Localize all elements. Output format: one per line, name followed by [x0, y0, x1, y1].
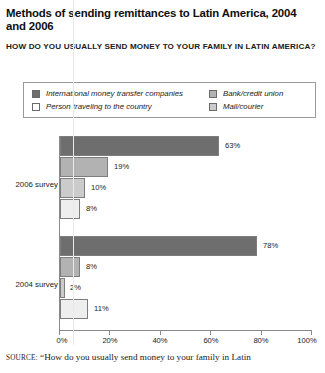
legend-swatch-icon	[32, 90, 40, 98]
bar-value-label: 63%	[225, 141, 240, 150]
page-title: Methods of sending remittances to Latin …	[6, 7, 313, 34]
x-axis-tick-label: 60%	[203, 336, 218, 345]
bar-2006-international-money-transfer-companies	[60, 136, 219, 156]
bar-value-label: 2%	[70, 283, 81, 292]
x-axis-tick	[311, 331, 312, 335]
group-label-2004: 2004 survey	[2, 280, 58, 289]
bar-2006-person-traveling-to-the-country	[60, 178, 85, 198]
bar-2004-person-traveling-to-the-country	[60, 278, 65, 298]
x-axis-line	[59, 330, 312, 331]
chart-header: Methods of sending remittances to Latin …	[0, 0, 325, 51]
x-axis-tick-label: 40%	[152, 336, 167, 345]
bar-value-label: 19%	[114, 162, 129, 171]
chart-page: Methods of sending remittances to Latin …	[0, 0, 325, 373]
x-axis-tick-label: 100%	[297, 336, 316, 345]
x-axis-tick	[261, 331, 262, 335]
bar-2004-international-money-transfer-companies	[60, 236, 257, 256]
bar-2006-mail-courier	[60, 199, 80, 219]
bar-2004-mail-courier	[60, 299, 88, 319]
legend-item-label: Person traveling to the country	[46, 102, 152, 111]
x-axis-tick-label: 0%	[57, 336, 68, 345]
bar-2004-bank-credit-union	[60, 257, 80, 277]
legend-item-person-traveling-to-the-country: Person traveling to the country	[24, 102, 204, 111]
legend-item-international-money-transfer-companies: International money transfer companies	[24, 89, 204, 98]
group-label-2006: 2006 survey	[2, 180, 58, 189]
legend-item-mail-courier: Mail/courier	[204, 102, 314, 111]
source-note: SOURCE: “How do you usually send money t…	[6, 352, 321, 364]
bar-value-label: 11%	[94, 304, 109, 313]
chart-subtitle: HOW DO YOU USUALLY SEND MONEY TO YOUR FA…	[6, 42, 313, 51]
x-axis-tick-label: 20%	[102, 336, 117, 345]
plot-area: 2006 survey 63% 19% 10% 8% 2004 survey	[0, 130, 325, 345]
x-axis-tick	[160, 331, 161, 335]
x-axis-tick	[59, 331, 60, 335]
legend-row: International money transfer companies B…	[24, 87, 315, 100]
legend-swatch-icon	[209, 103, 217, 111]
x-axis-tick-label: 80%	[253, 336, 268, 345]
legend-swatch-icon	[32, 103, 40, 111]
legend-item-label: Mail/courier	[223, 102, 263, 111]
x-axis-tick	[210, 331, 211, 335]
legend-item-bank-credit-union: Bank/credit union	[204, 89, 314, 98]
legend-row: Person traveling to the country Mail/cou…	[24, 100, 315, 113]
bar-value-label: 10%	[91, 183, 106, 192]
source-label: SOURCE:	[6, 354, 38, 362]
bar-value-label: 8%	[86, 262, 97, 271]
legend-item-label: Bank/credit union	[223, 89, 283, 98]
x-axis-tick	[109, 331, 110, 335]
bar-value-label: 8%	[86, 204, 97, 213]
bar-value-label: 78%	[263, 241, 278, 250]
legend-swatch-icon	[209, 90, 217, 98]
legend-item-label: International money transfer companies	[46, 89, 183, 98]
source-text: “How do you usually send money to your f…	[40, 352, 251, 362]
chart-legend: International money transfer companies B…	[23, 82, 316, 118]
bar-2006-bank-credit-union	[60, 157, 108, 177]
